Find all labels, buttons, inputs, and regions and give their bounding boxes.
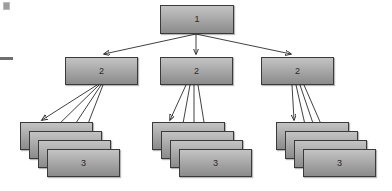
node-label: 2 — [99, 67, 104, 76]
node-label: 2 — [194, 67, 199, 76]
node-level2-2[interactable]: 2 — [160, 57, 233, 85]
node-label: 1 — [194, 15, 199, 24]
node-level3-1-layer4[interactable]: 3 — [47, 149, 120, 177]
edge-1-to-2c — [196, 34, 291, 54]
node-level2-1[interactable]: 2 — [65, 57, 138, 85]
node-level3-3-layer4[interactable]: 3 — [303, 149, 376, 177]
margin-square-artifact — [3, 2, 10, 10]
node-level1-1[interactable]: 1 — [160, 5, 234, 34]
edge-1-to-2a — [104, 34, 196, 54]
margin-dash-artifact — [0, 57, 13, 60]
edges-level1-to-level2 — [104, 34, 291, 54]
node-label: 2 — [295, 67, 300, 76]
node-level2-3[interactable]: 2 — [261, 57, 334, 85]
edge-2c-to-3c1 — [292, 85, 294, 120]
node-label: 3 — [337, 159, 342, 168]
node-label: 3 — [81, 159, 86, 168]
diagram-canvas: 1 2 2 2 3 3 3 3 3 3 3 3 — [0, 0, 392, 191]
node-label: 3 — [213, 159, 218, 168]
node-level3-2-layer4[interactable]: 3 — [179, 149, 252, 177]
edge-2b-to-3b1 — [170, 85, 186, 120]
edge-2a-to-3a1 — [42, 85, 97, 120]
